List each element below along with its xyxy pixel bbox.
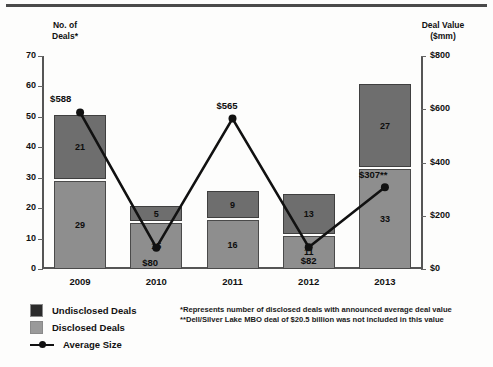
average-size-data-point[interactable]: [152, 244, 160, 252]
average-size-value-label: $307**: [359, 169, 388, 180]
right-axis-tick-label: $0: [430, 263, 470, 273]
legend-label-undisclosed: Undisclosed Deals: [52, 305, 136, 316]
right-axis-tick-label: $400: [430, 157, 470, 167]
left-axis-tick-label: 70: [10, 50, 36, 60]
average-size-line: [42, 56, 423, 269]
left-axis-tick-label: 30: [10, 172, 36, 182]
left-axis-tick-label: 60: [10, 80, 36, 90]
average-size-data-point[interactable]: [305, 243, 313, 251]
right-axis-caption-line2: ($mm): [400, 31, 486, 42]
legend-item-undisclosed: Undisclosed Deals: [30, 302, 136, 319]
legend-swatch-undisclosed-icon: [30, 304, 43, 317]
right-axis-tick-label: $600: [430, 103, 470, 113]
left-axis-tick-label: 50: [10, 111, 36, 121]
average-size-data-point[interactable]: [76, 108, 84, 116]
average-size-data-point[interactable]: [229, 115, 237, 123]
right-axis-tick-mark: [421, 269, 426, 270]
footnote-1: *Represents number of disclosed deals wi…: [180, 305, 480, 315]
chart-page: No. of Deals* Deal Value ($mm) 706050403…: [0, 0, 493, 367]
x-axis-label: 2009: [45, 276, 115, 287]
top-divider: [6, 4, 487, 7]
left-axis-tick-mark: [38, 269, 43, 270]
average-size-data-point[interactable]: [381, 183, 389, 191]
legend-line-marker-icon: [30, 339, 54, 350]
plot-area: 292115516911133327: [42, 56, 423, 269]
legend-label-disclosed: Disclosed Deals: [52, 322, 125, 333]
x-axis-label: 2013: [350, 276, 420, 287]
average-size-value-label: $588: [50, 93, 71, 104]
legend-swatch-disclosed-icon: [30, 321, 43, 334]
x-axis-label: 2011: [198, 276, 268, 287]
x-axis-label: 2012: [274, 276, 344, 287]
left-axis-caption-line1: No. of: [28, 20, 102, 31]
left-axis-tick-label: 0: [10, 263, 36, 273]
x-axis-label: 2010: [121, 276, 191, 287]
right-axis-caption-line1: Deal Value: [400, 20, 486, 31]
left-axis-caption-line2: Deals*: [28, 31, 102, 42]
average-size-value-label: $80: [142, 257, 158, 268]
legend-item-average: Average Size: [30, 336, 136, 353]
average-size-value-label: $565: [217, 100, 238, 111]
footnotes: *Represents number of disclosed deals wi…: [180, 305, 480, 325]
chart-legend: Undisclosed Deals Disclosed Deals Averag…: [30, 302, 136, 353]
left-axis-tick-label: 40: [10, 141, 36, 151]
right-axis-caption: Deal Value ($mm): [400, 20, 486, 41]
left-axis-tick-label: 10: [10, 233, 36, 243]
footnote-2: **Dell/Silver Lake MBO deal of $20.5 bil…: [180, 315, 480, 325]
right-axis-tick-label: $800: [430, 50, 470, 60]
legend-label-average: Average Size: [63, 339, 122, 350]
left-axis-caption: No. of Deals*: [28, 20, 102, 41]
legend-item-disclosed: Disclosed Deals: [30, 319, 136, 336]
average-size-value-label: $82: [301, 255, 317, 266]
right-axis-tick-label: $200: [430, 210, 470, 220]
left-axis-tick-label: 20: [10, 202, 36, 212]
